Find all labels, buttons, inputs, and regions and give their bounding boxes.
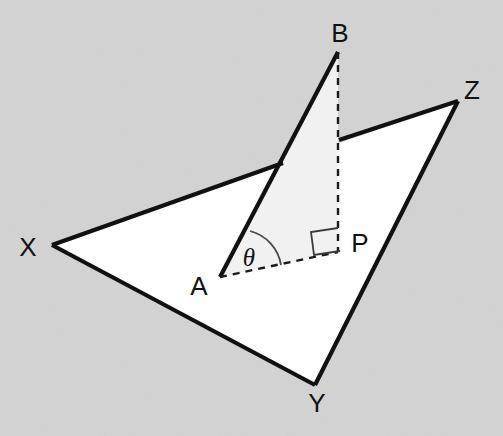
vertex-label-a: A [190, 271, 208, 301]
vertex-label-z: Z [464, 75, 480, 105]
vertex-label-x: X [19, 232, 36, 262]
vertex-label-y: Y [308, 388, 325, 418]
angle-label-theta: θ [243, 244, 255, 271]
vertex-label-b: B [331, 18, 348, 48]
diagram-canvas: B Z X Y A P θ [0, 0, 503, 436]
vertex-label-p: P [351, 228, 368, 258]
geometry-diagram: B Z X Y A P θ [0, 0, 503, 436]
